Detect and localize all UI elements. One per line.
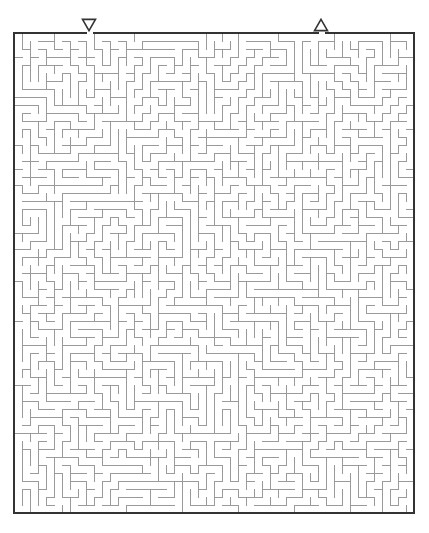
maze-canvas	[0, 0, 429, 533]
maze-figure	[0, 0, 429, 533]
